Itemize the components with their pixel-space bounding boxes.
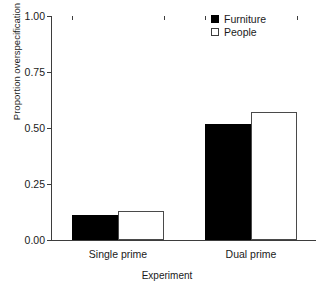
plot-area: 0.000.250.500.751.00 Single primeDual pr… (51, 16, 316, 240)
legend-label: Furniture (224, 13, 266, 25)
y-axis-line (51, 16, 52, 240)
x-tick-mark (72, 16, 73, 20)
bar-dual-prime-people (251, 112, 297, 240)
x-axis-title: Experiment (0, 270, 334, 282)
bar-single-prime-people (118, 211, 164, 240)
y-tick-mark (47, 72, 51, 73)
y-tick-label: 0.75 (25, 67, 45, 78)
y-tick-label: 0.50 (25, 123, 45, 134)
x-tick-mark (205, 16, 206, 20)
hollow-square-icon (211, 28, 219, 36)
y-tick-mark (47, 240, 51, 241)
bar-dual-prime-furniture (205, 124, 251, 240)
bar-chart-figure: Proportion overspecification 0.000.250.5… (0, 0, 334, 296)
bar-single-prime-furniture (72, 215, 118, 240)
legend: FurniturePeople (211, 12, 266, 38)
legend-item-furniture: Furniture (211, 12, 266, 25)
y-axis-title: Proportion overspecification (11, 0, 22, 162)
x-axis-line (51, 240, 316, 241)
y-tick-mark (47, 184, 51, 185)
x-tick-mark (297, 16, 298, 20)
y-tick-label: 1.00 (25, 11, 45, 22)
y-tick-mark (47, 16, 51, 17)
x-tick-label-single-prime: Single prime (89, 248, 147, 260)
legend-label: People (224, 26, 257, 38)
filled-square-icon (211, 15, 219, 23)
x-tick-mark (164, 16, 165, 20)
legend-item-people: People (211, 25, 266, 38)
y-tick-label: 0.25 (25, 179, 45, 190)
y-tick-label: 0.00 (25, 235, 45, 246)
y-tick-mark (47, 128, 51, 129)
x-tick-label-dual-prime: Dual prime (226, 248, 277, 260)
